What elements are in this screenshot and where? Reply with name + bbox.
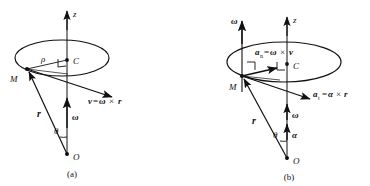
equation-label-at: a t = α × r [313, 89, 348, 101]
angle-label-theta: θ [273, 130, 278, 140]
axis-label-z: z [292, 15, 297, 25]
point-label-O: O [73, 152, 80, 162]
panel-caption-b: (b) [284, 172, 295, 182]
diagram-panel-a: z C ρ M O r θ ω [0, 0, 185, 186]
right-angle-mark-C [277, 62, 285, 70]
equation-an-eq: = [264, 47, 269, 57]
equation-an-cross: × [280, 47, 285, 57]
radius-label-rho: ρ [40, 54, 46, 64]
equation-v-cross: × [109, 96, 114, 106]
equation-at-sub: t [318, 95, 320, 101]
radius-line-rho [27, 60, 67, 69]
axis-label-z: z [72, 9, 77, 19]
vector-arrow-v [27, 69, 112, 97]
point-label-C: C [293, 61, 300, 71]
rotation-circle [15, 40, 109, 76]
equation-at-alpha: α [328, 89, 334, 99]
panel-a-canvas: z C ρ M O r θ ω [0, 0, 185, 186]
diagram-panel-b: z ω C M a n = [185, 0, 370, 186]
vector-label-omega-axis: ω [292, 110, 299, 120]
equation-v-omega: ω [99, 96, 106, 106]
equation-v-eq: = [93, 96, 98, 106]
figure-root: z C ρ M O r θ ω [0, 0, 370, 186]
right-angle-mark-M [247, 62, 255, 70]
point-label-M: M [9, 74, 18, 84]
equation-v-r: r [118, 96, 122, 106]
point-label-O: O [293, 156, 300, 166]
vector-arrow-r [244, 79, 287, 158]
equation-an-omega: ω [270, 47, 277, 57]
vector-label-r: r [37, 108, 41, 119]
equation-at-cross: × [336, 89, 341, 99]
vector-label-r: r [252, 115, 256, 126]
vector-arrow-r [29, 72, 67, 154]
equation-at-r: r [344, 89, 348, 99]
omega-top-label: ω [231, 16, 238, 26]
point-marker-C [285, 62, 289, 66]
equation-an-v: v [289, 47, 294, 57]
vector-label-omega: ω [72, 112, 79, 122]
panel-caption-a: (a) [67, 169, 77, 179]
vector-arrow-an [242, 68, 277, 76]
equation-label-an: a n = ω × v [255, 47, 294, 59]
point-label-M: M [228, 82, 237, 92]
vector-label-alpha: α [292, 130, 298, 140]
equation-an-sub: n [260, 53, 263, 59]
equation-at-eq: = [322, 89, 327, 99]
panel-b-canvas: z ω C M a n = [185, 0, 370, 186]
angle-label-theta: θ [54, 126, 59, 136]
point-label-C: C [73, 56, 80, 66]
equation-label-v: v = ω × r [88, 96, 122, 106]
